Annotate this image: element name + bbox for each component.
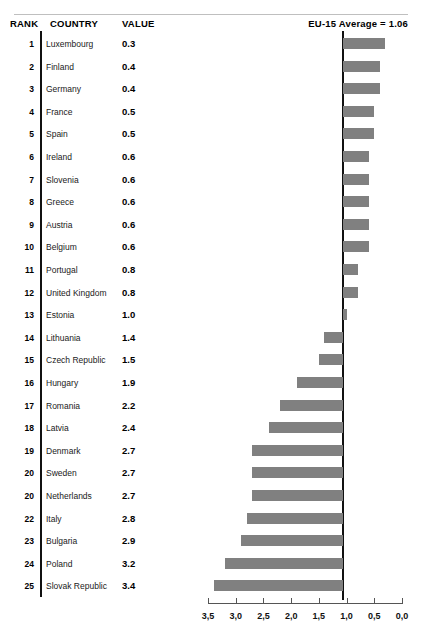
row-rank: 11 (8, 259, 34, 281)
value-bar (343, 309, 346, 320)
value-bar (324, 332, 343, 343)
row-rank: 3 (8, 78, 34, 100)
row-country: Slovenia (46, 169, 79, 191)
row-rank: 1 (8, 33, 34, 55)
table-row: 23Bulgaria2.9 (0, 530, 422, 552)
x-axis-tick (374, 598, 375, 603)
table-row: 22Italy2.8 (0, 508, 422, 530)
row-value: 2.4 (122, 417, 135, 439)
row-value: 1.9 (122, 372, 135, 394)
value-bar (269, 422, 343, 433)
table-row: 16Hungary1.9 (0, 372, 422, 394)
value-bar (343, 287, 357, 298)
row-value: 0.6 (122, 191, 135, 213)
x-axis-line (208, 603, 403, 604)
row-country: Estonia (46, 304, 74, 326)
value-bar (343, 83, 380, 94)
table-row: 11Portugal0.8 (0, 259, 422, 281)
x-axis-tick (208, 598, 209, 603)
row-rank: 23 (8, 530, 34, 552)
row-rank: 9 (8, 214, 34, 236)
table-row: 3Germany0.4 (0, 78, 422, 100)
value-bar (319, 354, 343, 365)
row-rank: 18 (8, 417, 34, 439)
row-value: 2.7 (122, 462, 135, 484)
row-value: 0.6 (122, 236, 135, 258)
row-value: 2.7 (122, 485, 135, 507)
row-country: Austria (46, 214, 72, 236)
value-bar (247, 513, 343, 524)
row-value: 2.2 (122, 395, 135, 417)
value-bar (343, 264, 357, 275)
x-axis-tick-label: 1,0 (340, 611, 353, 621)
row-rank: 2 (8, 56, 34, 78)
row-rank: 12 (8, 282, 34, 304)
row-value: 0.5 (122, 123, 135, 145)
table-row: 2Finland0.4 (0, 56, 422, 78)
row-country: Denmark (46, 440, 80, 462)
x-axis-tick (263, 598, 264, 603)
row-country: Portugal (46, 259, 78, 281)
row-rank: 22 (8, 508, 34, 530)
table-row: 19Denmark2.7 (0, 440, 422, 462)
row-rank: 16 (8, 372, 34, 394)
row-country: Italy (46, 508, 62, 530)
table-row: 7Slovenia0.6 (0, 169, 422, 191)
row-country: Poland (46, 553, 72, 575)
row-rank: 13 (8, 304, 34, 326)
row-country: Ireland (46, 146, 72, 168)
table-row: 10Belgium0.6 (0, 236, 422, 258)
row-rank: 24 (8, 553, 34, 575)
x-axis-tick (402, 598, 403, 603)
value-bar (343, 128, 374, 139)
row-rank: 25 (8, 575, 34, 597)
row-value: 0.3 (122, 33, 135, 55)
row-value: 2.9 (122, 530, 135, 552)
row-rank: 7 (8, 169, 34, 191)
row-country: Belgium (46, 236, 77, 258)
row-country: Slovak Republic (46, 575, 107, 597)
row-value: 2.7 (122, 440, 135, 462)
x-axis-tick (236, 598, 237, 603)
row-rank: 20 (8, 485, 34, 507)
row-country: Latvia (46, 417, 69, 439)
chart-page: RANK COUNTRY VALUE EU-15 Average = 1.06 … (0, 0, 422, 638)
value-bar (343, 61, 380, 72)
row-value: 1.5 (122, 349, 135, 371)
row-value: 0.5 (122, 101, 135, 123)
row-value: 1.4 (122, 327, 135, 349)
row-value: 0.6 (122, 214, 135, 236)
row-rank: 15 (8, 349, 34, 371)
x-axis-tick-label: 0,0 (396, 611, 409, 621)
value-bar (297, 377, 344, 388)
value-bar (343, 174, 368, 185)
row-country: Romania (46, 395, 80, 417)
value-bar (343, 196, 368, 207)
table-row: 20Sweden2.7 (0, 462, 422, 484)
row-value: 3.2 (122, 553, 135, 575)
row-rank: 20 (8, 462, 34, 484)
row-country: Sweden (46, 462, 77, 484)
x-axis-tick (291, 598, 292, 603)
row-value: 0.8 (122, 259, 135, 281)
value-bar (343, 219, 368, 230)
row-country: Greece (46, 191, 74, 213)
value-bar (241, 535, 343, 546)
table-row: 14Lithuania1.4 (0, 327, 422, 349)
table-row: 12United Kingdom0.8 (0, 282, 422, 304)
table-row: 6Ireland0.6 (0, 146, 422, 168)
row-value: 0.4 (122, 78, 135, 100)
x-axis-tick-label: 2,0 (285, 611, 298, 621)
x-axis-tick-label: 3,5 (202, 611, 215, 621)
table-row: 18Latvia2.4 (0, 417, 422, 439)
table-row: 17Romania2.2 (0, 395, 422, 417)
x-axis-tick-label: 3,0 (229, 611, 242, 621)
table-row: 1Luxembourg0.3 (0, 33, 422, 55)
row-value: 1.0 (122, 304, 135, 326)
value-bar (343, 106, 374, 117)
row-value: 2.8 (122, 508, 135, 530)
x-axis-tick-label: 0,5 (368, 611, 381, 621)
x-axis-tick (347, 598, 348, 603)
table-row: 5Spain0.5 (0, 123, 422, 145)
value-bar (343, 38, 385, 49)
